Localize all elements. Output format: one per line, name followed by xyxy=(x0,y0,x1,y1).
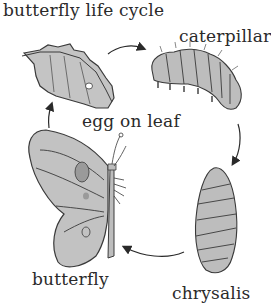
label-butterfly: butterfly xyxy=(32,269,109,289)
arrow-egg-to-caterpillar xyxy=(108,46,142,54)
label-egg-on-leaf: egg on leaf xyxy=(82,111,180,131)
arrow-butterfly-to-egg xyxy=(49,106,51,128)
butterfly-icon xyxy=(29,130,126,267)
leaf-with-egg-icon xyxy=(22,44,114,108)
arrow-chrysalis-to-butterfly xyxy=(126,248,184,256)
label-caterpillar: caterpillar xyxy=(179,26,271,46)
arrow-caterpillar-to-chrysalis xyxy=(234,124,240,162)
label-chrysalis: chrysalis xyxy=(172,283,250,303)
chrysalis-icon xyxy=(195,168,236,273)
caterpillar-icon xyxy=(152,41,241,109)
